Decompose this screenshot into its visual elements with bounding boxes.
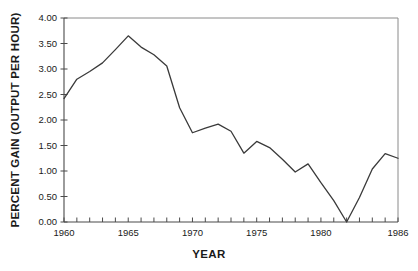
y-axis-tick-label: 0.50 <box>39 191 58 202</box>
x-axis-title: YEAR <box>0 248 418 260</box>
y-axis-tick-label: 0.00 <box>39 216 58 227</box>
line-chart-plot: 0.000.501.001.502.002.503.003.504.001960… <box>0 0 418 271</box>
y-axis-tick-label: 2.50 <box>39 89 58 100</box>
y-axis-tick-label: 3.00 <box>39 63 58 74</box>
x-axis-tick-label: 1975 <box>246 227 267 238</box>
y-axis-tick-label: 1.50 <box>39 140 58 151</box>
y-axis-tick-label: 1.00 <box>39 165 58 176</box>
x-axis-tick-label: 1965 <box>118 227 139 238</box>
x-axis-tick-label: 1980 <box>310 227 331 238</box>
x-axis-tick-label: 1970 <box>182 227 203 238</box>
chart-container: PERCENT GAIN (OUTPUT PER HOUR) 0.000.501… <box>0 0 418 271</box>
x-axis-tick-label: 1960 <box>53 227 74 238</box>
y-axis-tick-label: 3.50 <box>39 38 58 49</box>
x-axis-tick-label: 1986 <box>387 227 408 238</box>
y-axis-tick-label: 4.00 <box>39 12 58 23</box>
data-series-line-0 <box>64 36 398 222</box>
y-axis-tick-label: 2.00 <box>39 114 58 125</box>
